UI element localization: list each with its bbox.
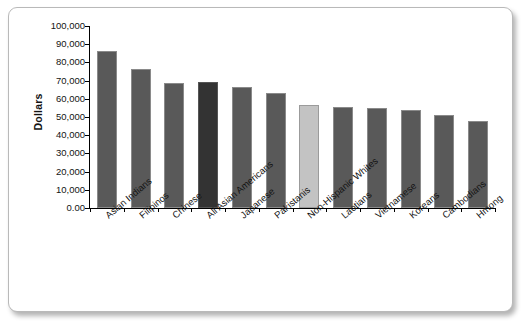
bar-chart: Dollars 100,00090,00080,00070,00060,0005… bbox=[9, 8, 512, 311]
x-tick-mark bbox=[326, 208, 327, 212]
x-tick-mark bbox=[225, 208, 226, 212]
y-tick-mark bbox=[85, 81, 90, 82]
x-tick-mark bbox=[360, 208, 361, 212]
x-tick-mark bbox=[191, 208, 192, 212]
x-tick-mark bbox=[461, 208, 462, 212]
x-tick-label: Laotians bbox=[339, 189, 374, 221]
x-tick-mark bbox=[90, 208, 91, 212]
x-tick-mark bbox=[259, 208, 260, 212]
chart-frame: Dollars 100,00090,00080,00070,00060,0005… bbox=[8, 7, 513, 312]
x-axis-tick-labels: Asian IndiansFilipinosChineseAll Asian A… bbox=[9, 8, 512, 311]
y-tick-mark bbox=[85, 26, 90, 27]
x-tick-mark bbox=[495, 208, 496, 212]
x-tick-mark bbox=[293, 208, 294, 212]
x-tick-label: Filipinos bbox=[137, 190, 171, 221]
x-tick-mark bbox=[158, 208, 159, 212]
y-tick-mark bbox=[85, 99, 90, 100]
x-tick-label: Chinese bbox=[170, 190, 204, 221]
y-tick-mark bbox=[85, 62, 90, 63]
x-tick-mark bbox=[394, 208, 395, 212]
y-tick-mark bbox=[85, 190, 90, 191]
x-tick-label: Hmong bbox=[474, 192, 505, 220]
y-tick-mark bbox=[85, 135, 90, 136]
x-tick-mark bbox=[428, 208, 429, 212]
y-tick-mark bbox=[85, 153, 90, 154]
y-tick-mark bbox=[85, 117, 90, 118]
y-tick-mark bbox=[85, 172, 90, 173]
y-tick-mark bbox=[85, 44, 90, 45]
x-tick-mark bbox=[124, 208, 125, 212]
x-tick-label: Koreans bbox=[407, 189, 441, 220]
x-tick-label: Pakistanis bbox=[272, 184, 312, 220]
